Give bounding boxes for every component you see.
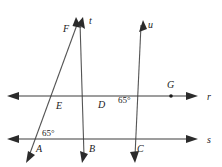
point-label-B: B — [89, 143, 95, 154]
arrowhead-right-s — [186, 135, 198, 143]
arrowhead-down-B — [80, 151, 88, 163]
point-label-G: G — [167, 79, 174, 90]
arrowhead-left-s — [7, 135, 19, 143]
geometry-figure-container: F E D G A B C r s t u 65° 65° — [0, 0, 222, 167]
point-label-E: E — [55, 100, 62, 111]
point-dot-G — [169, 94, 173, 98]
line-s — [7, 135, 198, 143]
transversal-line-u — [130, 20, 147, 163]
line-label-r: r — [207, 91, 211, 102]
transversal-line-FEA — [26, 17, 82, 163]
line-label-u: u — [148, 19, 153, 30]
geometry-diagram: F E D G A B C r s t u 65° 65° — [0, 0, 222, 167]
angle-label-at-A: 65° — [42, 128, 55, 138]
transversal-line-t — [77, 17, 88, 163]
transversal-u-segment — [135, 25, 141, 156]
line-label-t: t — [89, 15, 92, 26]
point-label-A: A — [35, 143, 43, 154]
point-label-C: C — [137, 143, 144, 154]
arrowhead-down-A — [26, 151, 35, 163]
point-label-F: F — [62, 23, 70, 34]
arrowhead-up-u — [139, 20, 147, 32]
transversal-t-segment-upper — [80, 22, 84, 156]
point-label-D: D — [97, 99, 106, 110]
arrowhead-left-r — [7, 92, 19, 100]
arrowhead-right-r — [186, 92, 198, 100]
angle-label-at-D: 65° — [118, 95, 131, 105]
line-label-s: s — [207, 134, 211, 145]
